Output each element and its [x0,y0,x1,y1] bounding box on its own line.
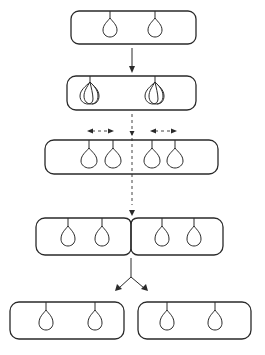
chromosome-icon [61,218,75,246]
chromosome-icon [148,11,162,37]
stage-1-cell [71,11,196,44]
chromosome-icon [39,302,53,330]
stage-5-daughter-cell-right [138,302,251,339]
cell-division-diagram [0,0,265,355]
replicated-chromosome-icon [80,76,99,104]
chromosome-icon [95,218,109,246]
separation-arrow-right-icon [150,129,177,134]
chromosome-icon [160,302,174,330]
division-line [129,114,135,216]
chromosome-icon [167,140,183,168]
chromosome-icon [88,302,102,330]
split-arrow-icon [115,258,148,291]
arrow-down-icon [129,48,135,73]
chromosome-icon [187,218,201,246]
chromosome-icon [81,140,97,168]
chromosome-icon [103,11,117,37]
chromosome-icon [105,140,121,168]
replicated-chromosome-icon [145,76,164,104]
stage-4-dividing-cells [36,218,223,255]
chromosome-icon [144,140,160,168]
stage-5-daughter-cell-left [10,302,124,339]
stage-2-cell [67,76,196,110]
chromosome-icon [155,218,169,246]
separation-arrow-left-icon [87,129,114,134]
chromosome-icon [208,302,222,330]
